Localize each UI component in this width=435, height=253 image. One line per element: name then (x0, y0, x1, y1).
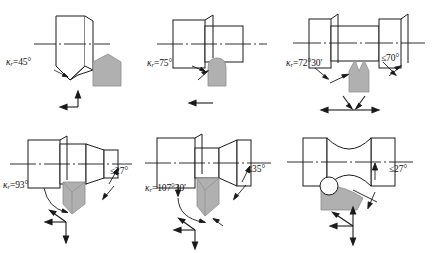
limit-label-6: ≤27° (389, 164, 407, 174)
diagram-cell-bottom-left: κr=93° ≤27° (0, 126, 145, 253)
limit-label-5: ≤35° (247, 164, 265, 174)
cutting-insert-3 (349, 60, 369, 92)
diagram-cell-top-left: κr=45° (0, 0, 145, 126)
kappa-label-5: κr=107°30′ (145, 183, 186, 193)
tool-angle-diagram-grid: κr=45° (0, 0, 435, 253)
cutting-insert-4 (63, 182, 85, 214)
cutting-insert-1 (93, 54, 121, 86)
feed-arrows-4 (45, 210, 69, 243)
diagram-cell-top-middle: κr=75° (145, 0, 285, 126)
limit-label-3: ≤70° (381, 53, 399, 63)
diagram-cell-bottom-middle: κr=107°30′ ≤35° (145, 126, 285, 253)
kappa-label-2: κr=75° (147, 58, 172, 68)
feed-arrows-6 (330, 207, 356, 245)
limit-label-4: ≤27° (110, 166, 128, 176)
feed-arrows-3 (321, 96, 379, 113)
diagram-cell-bottom-right: ≤27° (285, 126, 435, 253)
feed-arrows-1 (60, 91, 81, 110)
kappa-label-1: κr=45° (6, 57, 31, 67)
feed-arrows-5 (174, 218, 198, 249)
cell-6-drawing (285, 126, 435, 253)
diagram-cell-top-right: κr=72°30′ ≤70° (285, 0, 435, 126)
kappa-label-3: κr=72°30′ (286, 58, 322, 68)
kappa-label-4: κr=93° (3, 180, 28, 190)
cutting-insert-2 (208, 58, 226, 86)
cutting-insert-5 (197, 178, 219, 216)
cutting-insert-6 (320, 177, 363, 210)
feed-arrows-2 (189, 100, 213, 105)
